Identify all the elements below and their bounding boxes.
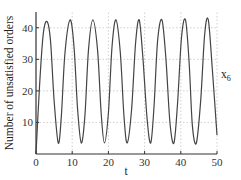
line-chart: 01020304050 10203040 t Number of unsatis… (0, 0, 241, 180)
y-tick-label: 30 (22, 53, 34, 65)
y-axis-label: Number of unsatisfied orders (3, 15, 15, 150)
series-label: x6 (221, 68, 231, 83)
y-tick-label: 10 (22, 116, 34, 128)
x-tick-label: 30 (139, 156, 151, 168)
x-tick-label: 20 (103, 156, 115, 168)
x-axis-label: t (124, 165, 128, 177)
x-tick-label: 10 (67, 156, 79, 168)
y-tick-label: 20 (22, 85, 34, 97)
y-tick-label: 40 (22, 22, 34, 34)
x-tick-label: 40 (175, 156, 187, 168)
series-line-x6 (36, 18, 217, 154)
x-tick-label: 0 (33, 156, 39, 168)
x-tick-label: 50 (212, 156, 224, 168)
